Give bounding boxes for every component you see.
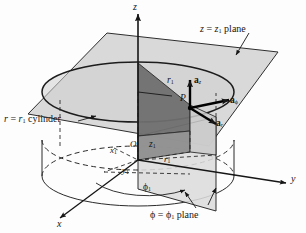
cylindrical-coordinates-figure: z x y P O r1 z1 x1 y1 r1 ϕ1 az aϕ ar z =… xyxy=(0,0,306,233)
dash-y1-a xyxy=(104,160,138,172)
z1-label: z1 xyxy=(149,140,156,150)
r1-top-label: r1 xyxy=(167,76,174,86)
y1-label: y1 xyxy=(122,166,129,176)
x1-label: x1 xyxy=(110,146,117,156)
point-P-label: P xyxy=(180,94,186,104)
cylinder-annotation: r = r1 cylinder xyxy=(4,114,61,125)
a-r-label: ar xyxy=(216,119,223,129)
phi1-label: ϕ1 xyxy=(143,183,151,193)
phi-plane-annotation: ϕ = ϕ1 plane xyxy=(150,210,198,221)
r1-base-label: r1 xyxy=(164,155,170,165)
point-P-marker xyxy=(188,106,192,110)
dash-x1 xyxy=(114,148,138,160)
a-phi-label: aϕ xyxy=(230,96,238,106)
z-axis-label: z xyxy=(133,2,137,12)
a-z-label: az xyxy=(194,76,201,86)
y-axis-label: y xyxy=(291,174,295,184)
x-axis-label: x xyxy=(57,219,61,229)
origin-label: O xyxy=(130,140,137,149)
z-plane-annotation: z = z1 plane xyxy=(200,24,246,35)
